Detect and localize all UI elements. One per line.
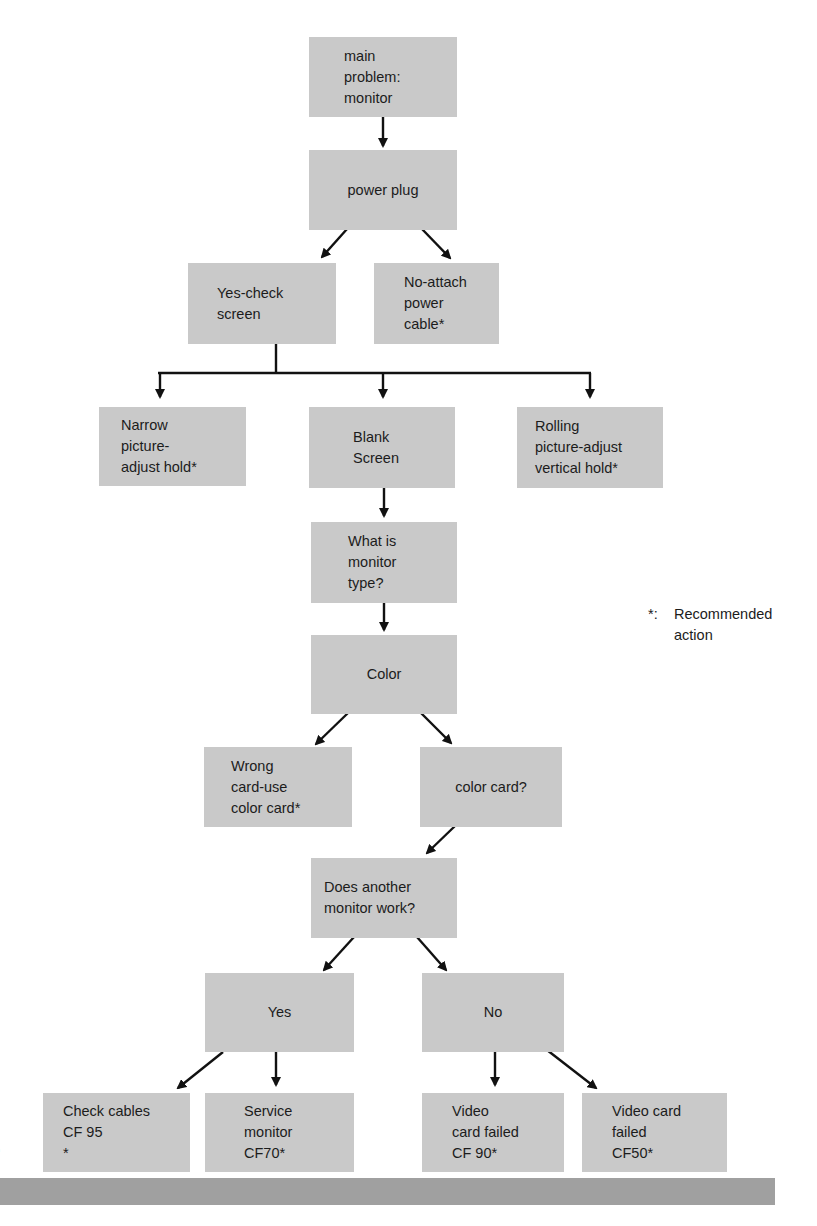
- node-label: Wrong card-use color card*: [231, 756, 300, 819]
- node-blank-screen: Blank Screen: [309, 407, 455, 488]
- node-no-attach-power-cable: No-attach power cable*: [374, 263, 499, 344]
- node-label: Service monitor CF70*: [244, 1101, 292, 1164]
- node-video-card-failed-cf90: Video card failed CF 90*: [422, 1093, 564, 1172]
- node-label: What is monitor type?: [348, 531, 396, 594]
- node-label: color card?: [455, 777, 527, 798]
- node-label: power plug: [348, 180, 419, 201]
- node-label: Check cables CF 95 *: [63, 1101, 150, 1164]
- node-service-monitor: Service monitor CF70*: [205, 1093, 354, 1172]
- node-wrong-card: Wrong card-use color card*: [204, 747, 352, 827]
- margin-parenthesis: ): [0, 1138, 1, 1161]
- node-label: Narrow picture- adjust hold*: [121, 415, 197, 478]
- node-color: Color: [311, 635, 457, 714]
- legend-asterisk-symbol: *:: [648, 604, 658, 625]
- node-video-card-failed-cf50: Video card failed CF50*: [582, 1093, 727, 1172]
- node-main-problem: main problem: monitor: [309, 37, 457, 117]
- node-label: Yes-check screen: [217, 283, 283, 325]
- node-narrow-picture: Narrow picture- adjust hold*: [99, 407, 246, 486]
- node-color-card: color card?: [420, 747, 562, 827]
- node-label: main problem: monitor: [344, 46, 400, 109]
- node-rolling-picture: Rolling picture-adjust vertical hold*: [517, 407, 663, 488]
- node-monitor-type: What is monitor type?: [311, 522, 457, 603]
- legend-text: Recommended action: [674, 604, 794, 646]
- node-label: Does another monitor work?: [324, 877, 415, 919]
- node-no: No: [422, 973, 564, 1052]
- node-label: Video card failed CF50*: [612, 1101, 681, 1164]
- node-power-plug: power plug: [309, 150, 457, 230]
- node-check-cables: Check cables CF 95 *: [43, 1093, 190, 1172]
- footer-bar: [0, 1178, 775, 1205]
- node-yes-check-screen: Yes-check screen: [188, 263, 336, 344]
- node-label: Yes: [268, 1002, 292, 1023]
- node-label: No: [484, 1002, 503, 1023]
- node-label: Rolling picture-adjust vertical hold*: [535, 416, 622, 479]
- node-label: Color: [367, 664, 402, 685]
- node-label: No-attach power cable*: [404, 272, 467, 335]
- node-label: Blank Screen: [353, 427, 399, 469]
- node-yes: Yes: [205, 973, 354, 1052]
- node-label: Video card failed CF 90*: [452, 1101, 519, 1164]
- node-another-monitor: Does another monitor work?: [311, 858, 457, 938]
